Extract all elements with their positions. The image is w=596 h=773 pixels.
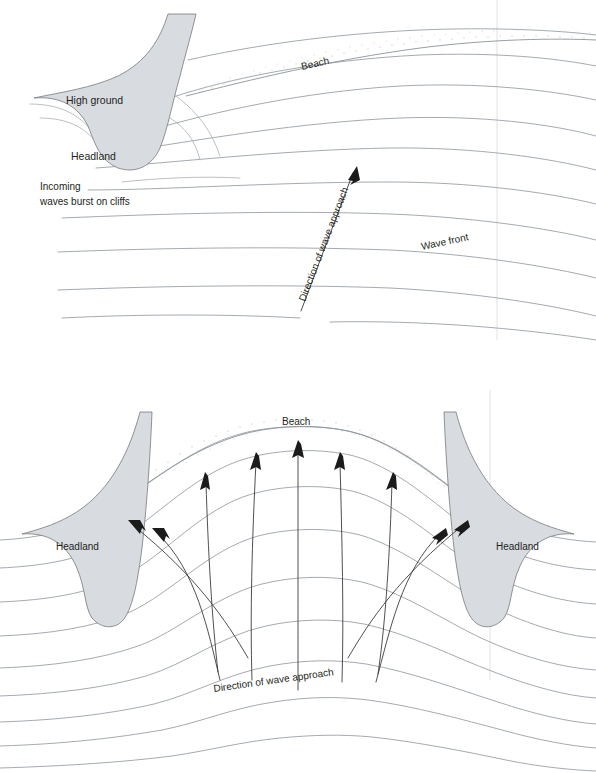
top-panel: High ground Headland Incoming waves burs… [0,0,596,380]
wave-front [330,322,596,340]
wave-front-refracted [176,96,220,156]
wave-front [96,148,596,170]
label-headland-top: Headland [71,150,116,162]
label-beach-bottom: Beach [282,416,310,427]
wave-front [170,54,596,98]
label-incoming-line2: waves burst on cliffs [39,196,130,207]
label-high-ground: High ground [66,94,123,106]
beach-stipple [199,29,590,92]
orthogonal-arrow [340,462,343,682]
beach-shoreline [186,39,596,96]
wave-front [0,735,596,771]
headland-right [444,412,574,627]
orthogonal-arrow [251,462,256,680]
headland-landmass-top [34,14,196,170]
wave-front [58,248,596,278]
label-headland-right: Headland [496,541,539,552]
wave-front [58,286,596,316]
wave-front-refracted [170,118,200,160]
label-incoming-line1: Incoming [40,181,81,192]
beach-stipple [119,418,450,502]
label-headland-left: Headland [56,541,99,552]
wave-front [120,117,596,152]
label-direction-top: Direction of wave approach [297,186,351,303]
label-beach-top: Beach [300,55,330,72]
orthogonal-arrow [378,482,392,674]
wave-front [62,315,300,318]
orthogonal-arrow [134,526,248,658]
orthogonal-arrow [348,526,462,658]
wave-front-refracted [122,177,240,182]
headland-left [22,412,152,627]
label-direction-bottom: Direction of wave approach [213,666,335,694]
bottom-panel: Beach Headland Headland Direction of wav… [0,390,596,773]
beach-shoreline [112,427,478,508]
diagram-canvas: High ground Headland Incoming waves burs… [0,0,596,773]
label-wave-front: Wave front [420,231,469,252]
bottom-orthogonal-arrows [128,440,470,690]
